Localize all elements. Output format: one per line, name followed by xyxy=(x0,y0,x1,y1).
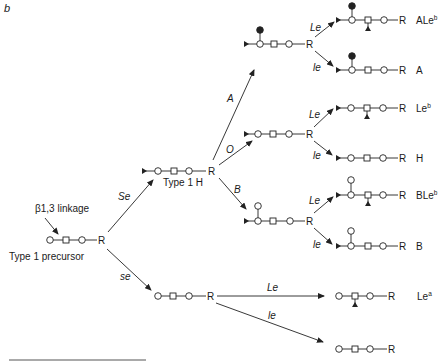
galactose-open-circle-icon xyxy=(348,228,355,235)
square-icon xyxy=(365,67,371,73)
square-icon xyxy=(365,243,371,249)
circle-icon xyxy=(380,243,387,250)
fucose-triangle-icon xyxy=(336,243,341,249)
se-upper-arrow xyxy=(108,180,153,232)
galactose-open-circle-icon xyxy=(255,203,262,210)
enzyme-label-le: le xyxy=(313,239,321,250)
circle-icon xyxy=(381,67,388,74)
galactose-open-circle-icon xyxy=(348,177,355,184)
b-branch-structure: R xyxy=(244,203,313,227)
circle-icon xyxy=(155,168,162,175)
bleb-structure: R xyxy=(336,177,406,206)
type1-h-label: Type 1 H xyxy=(163,177,203,188)
square-icon xyxy=(364,155,370,161)
terminal-r: R xyxy=(399,65,406,76)
fucose-triangle-icon xyxy=(244,131,249,137)
terminal-r: R xyxy=(399,103,406,114)
square-icon xyxy=(63,237,69,243)
square-icon xyxy=(170,293,176,299)
product-label-bleb: BLeb xyxy=(416,189,438,201)
fucose-triangle-icon xyxy=(336,192,341,198)
galnac-filled-circle-icon xyxy=(349,3,356,10)
a-antigen-structure: R xyxy=(336,53,406,76)
enzyme-label-A: A xyxy=(226,93,234,104)
product-label-aleb: ALeb xyxy=(416,14,438,26)
square-icon xyxy=(364,105,370,111)
circle-icon xyxy=(287,218,294,225)
se-branch-structure: R xyxy=(155,291,215,302)
fucose-triangle-icon xyxy=(244,41,249,47)
square-icon xyxy=(365,17,371,23)
product-label-leb: Leb xyxy=(416,102,431,114)
o-branch-structure: R xyxy=(244,129,313,140)
enzyme-label-Le: Le xyxy=(309,109,321,120)
circle-icon xyxy=(186,293,193,300)
enzyme-label-se: se xyxy=(120,271,131,282)
linkage-annotation: β1,3 linkage xyxy=(35,203,90,214)
enzyme-label-B: B xyxy=(234,184,241,195)
circle-icon xyxy=(336,293,343,300)
square-icon xyxy=(352,346,358,352)
terminal-r: R xyxy=(208,166,215,177)
square-icon xyxy=(171,168,177,174)
product-label-h: H xyxy=(416,153,423,164)
o-arrow xyxy=(219,141,252,165)
fucose-triangle-icon xyxy=(336,105,341,111)
b-arrow xyxy=(219,178,246,209)
glycan-biosynthesis-diagram: b R β1,3 linkage Type 1 precursor Se se … xyxy=(0,0,446,361)
square-icon xyxy=(270,218,276,224)
enzyme-label-le: le xyxy=(313,62,321,73)
enzyme-label-Se: Se xyxy=(118,191,131,202)
h-antigen-structure: R xyxy=(336,153,406,164)
type1-precursor-structure: R xyxy=(47,235,106,246)
galnac-filled-circle-icon xyxy=(349,53,356,60)
galnac-filled-circle-icon xyxy=(257,27,264,34)
lea-structure: R xyxy=(336,291,396,307)
fucose-triangle-icon xyxy=(336,155,341,161)
aleb-structure: R xyxy=(336,3,406,31)
circle-icon xyxy=(286,41,293,48)
circle-icon xyxy=(255,131,262,138)
terminal-r: R xyxy=(306,216,313,227)
square-icon xyxy=(271,41,277,47)
leb-structure: R xyxy=(336,103,406,119)
circle-icon xyxy=(367,293,374,300)
se-lower-arrow xyxy=(107,249,151,290)
terminal-r: R xyxy=(399,241,406,252)
circle-icon xyxy=(79,237,86,244)
circle-icon xyxy=(380,105,387,112)
fucose-triangle-icon xyxy=(352,302,358,307)
product-label-b: B xyxy=(416,241,423,252)
circle-icon xyxy=(286,131,293,138)
fucose-triangle-icon xyxy=(365,26,371,31)
type1-precursor-label: Type 1 precursor xyxy=(9,251,85,262)
fucose-triangle-icon xyxy=(336,67,341,73)
b-antigen-structure: R xyxy=(336,228,406,252)
terminal-r: R xyxy=(306,39,313,50)
se-le-lower-arrow xyxy=(216,303,323,342)
enzyme-label-Le: Le xyxy=(267,282,279,293)
fucose-triangle-icon xyxy=(364,114,370,119)
circle-icon xyxy=(155,293,162,300)
circle-icon xyxy=(255,218,262,225)
circle-icon xyxy=(348,192,355,199)
square-icon xyxy=(270,131,276,137)
terminal-r: R xyxy=(399,190,406,201)
circle-icon xyxy=(349,67,356,74)
terminal-r: R xyxy=(306,129,313,140)
circle-icon xyxy=(367,346,374,353)
enzyme-label-le: le xyxy=(313,150,321,161)
unmodified-structure: R xyxy=(336,344,396,355)
square-icon xyxy=(352,293,358,299)
type1-h-structure: R xyxy=(142,166,215,177)
a-branch-structure: R xyxy=(244,27,313,50)
circle-icon xyxy=(348,105,355,112)
circle-icon xyxy=(349,17,356,24)
enzyme-label-Le: Le xyxy=(309,195,321,206)
circle-icon xyxy=(348,243,355,250)
panel-label: b xyxy=(4,2,10,14)
product-label-lea: Lea xyxy=(417,290,432,302)
product-label-a: A xyxy=(416,65,423,76)
terminal-r: R xyxy=(388,291,395,302)
circle-icon xyxy=(380,155,387,162)
